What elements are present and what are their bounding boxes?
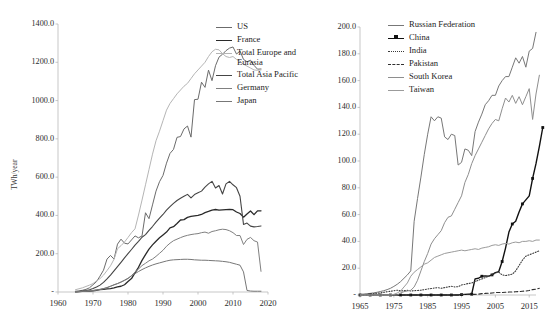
series-marker [511, 223, 514, 226]
legend-label: Germany [237, 83, 269, 93]
y-tick-label: 800.0 [12, 134, 54, 143]
y-tick-label: 400.0 [12, 210, 54, 219]
legend-item[interactable]: France [216, 35, 298, 46]
series-line [76, 209, 262, 291]
y-tick-label: 200.0 [12, 249, 54, 258]
legend-item[interactable]: South Korea [388, 72, 475, 83]
x-tick-label: 2010 [215, 298, 251, 308]
legend-item[interactable]: Russian Federation [388, 20, 475, 31]
x-tick-label: 1985 [410, 301, 446, 311]
series-marker [480, 275, 483, 278]
legend-item[interactable]: Germany [216, 83, 298, 94]
legend-label: India [409, 46, 427, 56]
legend-label: Total Europe and Eurasia [237, 48, 296, 67]
legend-item[interactable]: Total Europe and Eurasia [216, 48, 298, 68]
x-tick-label: 1975 [376, 301, 412, 311]
x-tick-label: 1990 [145, 298, 181, 308]
x-tick-label: 1980 [110, 298, 146, 308]
legend-item[interactable]: US [216, 22, 298, 33]
legend-label: France [237, 35, 260, 45]
legend-item[interactable]: Total Asia Pacific [216, 70, 298, 81]
x-tick-label: 1965 [342, 301, 378, 311]
legend-label: China [409, 33, 430, 43]
legend-label: Taiwan [409, 85, 434, 95]
series-line [360, 75, 539, 295]
x-tick-label: 2005 [477, 301, 513, 311]
legend-label: US [237, 22, 248, 32]
x-tick-label: 1995 [444, 301, 480, 311]
legend-label: Pakistan [409, 59, 438, 69]
y-tick-label: 600.0 [12, 172, 54, 181]
y-tick-label: 140.0 [314, 102, 356, 111]
series-line [360, 251, 539, 295]
legend-label: Total Asia Pacific [237, 70, 298, 80]
series-marker [521, 202, 524, 205]
legend-swatch-icon [388, 85, 404, 96]
legend-item[interactable]: China [388, 33, 475, 44]
x-tick-label: 1970 [75, 298, 111, 308]
series-marker [501, 260, 504, 263]
legend-swatch-icon [388, 33, 404, 44]
legend-swatch-icon [216, 48, 232, 59]
legend-swatch-icon [388, 59, 404, 70]
y-tick-label: 1400.0 [12, 19, 54, 28]
x-tick-label: 2015 [511, 301, 546, 311]
legend-label: Russian Federation [409, 20, 475, 30]
y-tick-label: 60.0 [314, 210, 356, 219]
legend-marker-icon [394, 35, 398, 39]
y-tick-label: 40.0 [314, 236, 356, 245]
left-chart-legend: USFranceTotal Europe and EurasiaTotal As… [216, 22, 298, 109]
legend-swatch-icon [216, 35, 232, 46]
legend-swatch-icon [216, 83, 232, 94]
legend-swatch-icon [388, 20, 404, 31]
series-marker [541, 126, 544, 129]
y-tick-label: - [12, 287, 54, 296]
y-tick-label: 20.0 [314, 263, 356, 272]
y-tick-label: 100.0 [314, 156, 356, 165]
legend-swatch-icon [216, 70, 232, 81]
legend-swatch-icon [388, 72, 404, 83]
y-tick-label: 1000.0 [12, 96, 54, 105]
right-chart-legend: Russian FederationChinaIndiaPakistanSout… [388, 20, 475, 98]
legend-swatch-icon [216, 22, 232, 33]
legend-item[interactable]: Japan [216, 96, 298, 107]
x-tick-label: 1960 [40, 298, 76, 308]
legend-label: Japan [237, 96, 257, 106]
y-tick-label: 160.0 [314, 76, 356, 85]
x-tick-label: 2000 [180, 298, 216, 308]
legend-item[interactable]: Pakistan [388, 59, 475, 70]
y-tick-label: - [314, 290, 356, 299]
series-marker [531, 177, 534, 180]
x-tick-label: 2020 [250, 298, 286, 308]
legend-label: South Korea [409, 72, 452, 82]
legend-swatch-icon [388, 46, 404, 57]
y-tick-label: 1200.0 [12, 57, 54, 66]
right-chart-panel: Russian FederationChinaIndiaPakistanSout… [300, 0, 546, 328]
y-tick-label: 80.0 [314, 183, 356, 192]
y-tick-label: 180.0 [314, 49, 356, 58]
legend-item[interactable]: India [388, 46, 475, 57]
y-tick-label: 120.0 [314, 129, 356, 138]
series-line [360, 128, 543, 296]
left-chart-panel: TWh/year USFranceTotal Europe and Eurasi… [0, 0, 300, 328]
legend-swatch-icon [216, 96, 232, 107]
legend-item[interactable]: Taiwan [388, 85, 475, 96]
figure-root: TWh/year USFranceTotal Europe and Eurasi… [0, 0, 546, 328]
y-tick-label: 200.0 [314, 22, 356, 31]
